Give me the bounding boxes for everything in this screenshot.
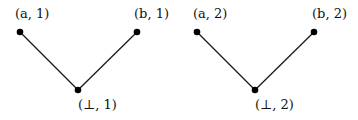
edge-a2-bot2 <box>197 32 255 90</box>
node-b1 <box>134 29 141 36</box>
node-a2 <box>194 29 201 36</box>
node-bot2 <box>252 87 259 94</box>
node-b2 <box>311 29 318 36</box>
label-bot1: (⊥, 1) <box>78 97 117 112</box>
poset-2: (a, 2) (b, 2) (⊥, 2) <box>193 6 347 112</box>
label-bot2: (⊥, 2) <box>255 97 294 112</box>
node-bot1 <box>75 87 82 94</box>
poset-1: (a, 1) (b, 1) (⊥, 1) <box>15 6 169 112</box>
label-b1: (b, 1) <box>134 6 169 21</box>
edge-a1-bot1 <box>20 32 78 90</box>
edge-b1-bot1 <box>78 32 137 90</box>
label-a1: (a, 1) <box>15 6 49 21</box>
hasse-diagram-canvas: (a, 1) (b, 1) (⊥, 1) (a, 2) (b, 2) (⊥, 2… <box>0 0 358 120</box>
label-b2: (b, 2) <box>312 6 347 21</box>
edge-b2-bot2 <box>255 32 314 90</box>
label-a2: (a, 2) <box>193 6 227 21</box>
node-a1 <box>17 29 24 36</box>
